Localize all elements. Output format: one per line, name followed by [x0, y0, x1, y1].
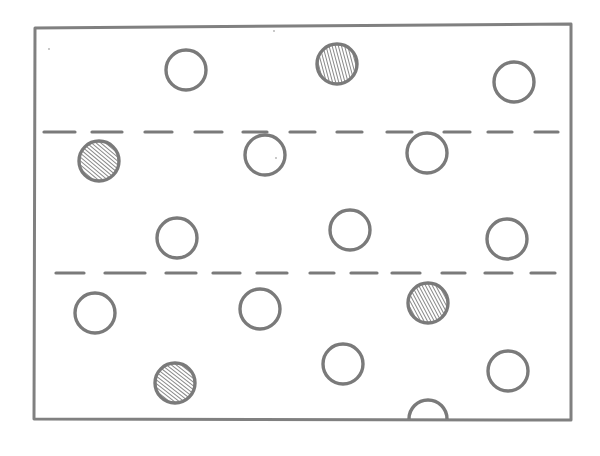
circle-outline	[487, 219, 527, 259]
circle-outline	[494, 62, 534, 102]
empty-circle	[166, 50, 206, 90]
hatched-circle	[64, 127, 133, 196]
empty-circle	[407, 133, 447, 173]
hatch-lines	[141, 349, 210, 418]
stray-marks	[48, 30, 277, 159]
stray-dot	[275, 157, 277, 159]
dashed-dividers	[44, 132, 558, 273]
circle-outline	[240, 289, 280, 329]
hatch-lines	[395, 270, 461, 337]
circle-outline	[75, 293, 115, 333]
circle-outline	[407, 133, 447, 173]
circle-outline	[166, 50, 206, 90]
half-circle-marker	[409, 400, 447, 419]
hatched-circle	[395, 270, 461, 337]
hatched-circle	[307, 34, 366, 95]
hatch-lines	[64, 127, 133, 196]
empty-circle	[240, 289, 280, 329]
hatched-circle	[141, 349, 210, 418]
half-circle-arc	[409, 400, 447, 419]
diagram-canvas	[0, 0, 600, 456]
empty-circle	[245, 135, 285, 175]
circle-outline	[330, 210, 370, 250]
circle-outline	[157, 218, 197, 258]
empty-circle	[330, 210, 370, 250]
empty-circle	[487, 219, 527, 259]
sketch-svg	[0, 0, 600, 456]
circle-outline	[323, 344, 363, 384]
circle-outline	[488, 351, 528, 391]
empty-circle	[323, 344, 363, 384]
empty-circle	[494, 62, 534, 102]
empty-circle	[157, 218, 197, 258]
circle-markers	[64, 34, 534, 418]
circle-outline	[245, 135, 285, 175]
empty-circle	[488, 351, 528, 391]
stray-dot	[48, 48, 50, 50]
empty-circle	[75, 293, 115, 333]
stray-dot	[273, 30, 275, 32]
